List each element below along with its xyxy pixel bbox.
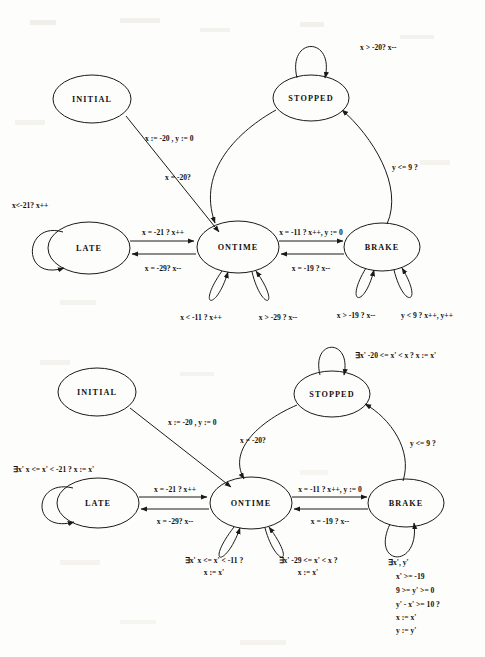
transition-brake-self: ∃x', y' x' >= -19 9 >= y' >= 0 y' - x' >…	[385, 523, 440, 635]
edge-label-stopped-self: x > -20? x--	[360, 43, 397, 52]
edge-label-brake-to-ontime: x = -19 ? x--	[292, 264, 331, 273]
state-label-brake: BRAKE	[365, 243, 400, 252]
edge-label-late-to-ontime: x = -21 ? x++	[142, 228, 184, 237]
transition-ontime-to-stopped: x = -20?	[240, 405, 297, 479]
state-node-initial[interactable]: INITIAL	[53, 75, 131, 123]
edge-label-ontime-self-left: x < -11 ? x++	[180, 313, 222, 322]
edge-label-ontime-self-left-line1: ∃x' x <= x' < -11 ?	[185, 556, 244, 565]
transition-ontime-self-left: x < -11 ? x++	[180, 271, 228, 322]
transition-ontime-to-late: x = -29? x--	[132, 254, 196, 273]
transition-brake-to-ontime: x = -19 ? x--	[294, 509, 368, 526]
edge-label-brake-self-right: y < 9 ? x++, y++	[401, 311, 453, 320]
diagram-page: x > -20? x-- x := -20 , y := 0 x = -20? …	[0, 0, 485, 657]
state-node-brake[interactable]: BRAKE	[368, 479, 444, 527]
paper-texture	[15, 18, 450, 305]
state-label-ontime: ONTIME	[218, 243, 259, 252]
transition-late-self: x<-21? x++	[12, 201, 64, 270]
transition-brake-to-stopped: y <= 9 ?	[342, 110, 418, 224]
transition-ontime-self-right: ∃x' -29 <= x' < x ? x := x'	[265, 527, 338, 577]
state-node-ontime[interactable]: ONTIME	[210, 477, 292, 529]
edge-label-brake-self-line1: ∃x', y'	[388, 558, 409, 567]
paper-texture-bottom	[40, 360, 328, 645]
state-node-stopped[interactable]: STOPPED	[273, 75, 349, 121]
state-node-late[interactable]: LATE	[48, 222, 130, 274]
transition-stopped-self: x > -20? x--	[296, 43, 397, 78]
edge-label-brake-self-left: x > -19 ? x--	[337, 311, 376, 320]
edge-label-brake-self-line6: y := y'	[396, 626, 416, 635]
edge-label-ontime-to-stopped: x = -20?	[165, 173, 191, 182]
transition-ontime-self-right: x > -29 ? x--	[252, 271, 298, 322]
state-label-late: LATE	[76, 244, 102, 253]
edge-label-brake-self-line2: x' >= -19	[396, 572, 425, 581]
state-label-late: LATE	[85, 499, 111, 508]
state-node-brake[interactable]: BRAKE	[344, 223, 420, 271]
edge-label-brake-self-line4: y' - x' >= 10 ?	[396, 600, 440, 609]
transition-ontime-to-brake: x = -11 ? x++, y := 0	[279, 228, 343, 241]
edge-label-brake-self-line3: 9 >= y' >= 0	[396, 586, 435, 595]
edge-label-brake-self-line5: x := x'	[396, 613, 416, 622]
transition-initial-to-ontime: x := -20 , y := 0	[130, 408, 231, 487]
state-node-ontime[interactable]: ONTIME	[197, 221, 279, 273]
state-node-initial[interactable]: INITIAL	[58, 368, 136, 416]
edge-label-late-to-ontime: x = -21 ? x++	[154, 485, 196, 494]
edge-label-ontime-self-right: x > -29 ? x--	[259, 313, 298, 322]
edge-label-late-self: ∃x' x <= x' < -21 ? x := x'	[13, 465, 94, 474]
state-node-late[interactable]: LATE	[57, 478, 139, 528]
transition-late-to-ontime: x = -21 ? x++	[139, 485, 207, 497]
transition-late-to-ontime: x = -21 ? x++	[130, 228, 194, 241]
bottom-state-machine-diagram: ∃x' -20 <= x' < x ? x := x' x := -20 , y…	[0, 340, 485, 657]
transition-ontime-to-stopped: x = -20?	[165, 110, 276, 223]
top-state-machine-diagram: x > -20? x-- x := -20 , y := 0 x = -20? …	[0, 0, 485, 340]
transition-brake-to-stopped: y <= 9 ?	[365, 404, 436, 481]
transition-ontime-to-late: x = -29? x--	[141, 509, 209, 526]
edge-label-ontime-self-left-line2: x := x'	[204, 568, 224, 577]
edge-label-brake-to-stopped: y <= 9 ?	[392, 163, 418, 172]
transition-brake-to-ontime: x = -19 ? x--	[281, 254, 344, 273]
state-label-ontime: ONTIME	[231, 499, 272, 508]
state-label-stopped: STOPPED	[288, 94, 333, 103]
edge-label-ontime-self-right-line2: x := x'	[298, 568, 318, 577]
edge-label-ontime-to-late: x = -29? x--	[145, 264, 182, 273]
transition-late-self: ∃x' x <= x' < -21 ? x := x'	[13, 465, 94, 524]
edge-label-stopped-self: ∃x' -20 <= x' < x ? x := x'	[355, 351, 436, 360]
edge-label-late-self: x<-21? x++	[12, 201, 48, 210]
edge-label-brake-to-ontime: x = -19 ? x--	[311, 517, 350, 526]
edge-label-initial-to-ontime: x := -20 , y := 0	[168, 418, 217, 427]
edge-label-ontime-to-brake: x = -11 ? x++, y := 0	[298, 485, 362, 494]
edge-label-ontime-to-brake: x = -11 ? x++, y := 0	[279, 228, 343, 237]
edge-label-ontime-to-stopped: x = -20?	[240, 436, 266, 445]
state-label-initial: INITIAL	[77, 388, 117, 397]
state-label-stopped: STOPPED	[309, 390, 354, 399]
edge-label-initial-to-ontime: x := -20 , y := 0	[145, 134, 194, 143]
state-label-initial: INITIAL	[72, 95, 112, 104]
transition-brake-self-right: y < 9 ? x++, y++	[394, 268, 453, 320]
transition-brake-self-left: x > -19 ? x--	[337, 268, 376, 320]
state-node-stopped[interactable]: STOPPED	[294, 371, 370, 417]
edge-label-ontime-self-right-line1: ∃x' -29 <= x' < x ?	[279, 556, 338, 565]
edge-label-brake-to-stopped: y <= 9 ?	[410, 439, 436, 448]
state-label-brake: BRAKE	[389, 499, 424, 508]
transition-ontime-to-brake: x = -11 ? x++, y := 0	[292, 485, 367, 497]
transition-ontime-self-left: ∃x' x <= x' < -11 ? x := x'	[185, 527, 244, 577]
edge-label-ontime-to-late: x = -29? x--	[157, 517, 194, 526]
